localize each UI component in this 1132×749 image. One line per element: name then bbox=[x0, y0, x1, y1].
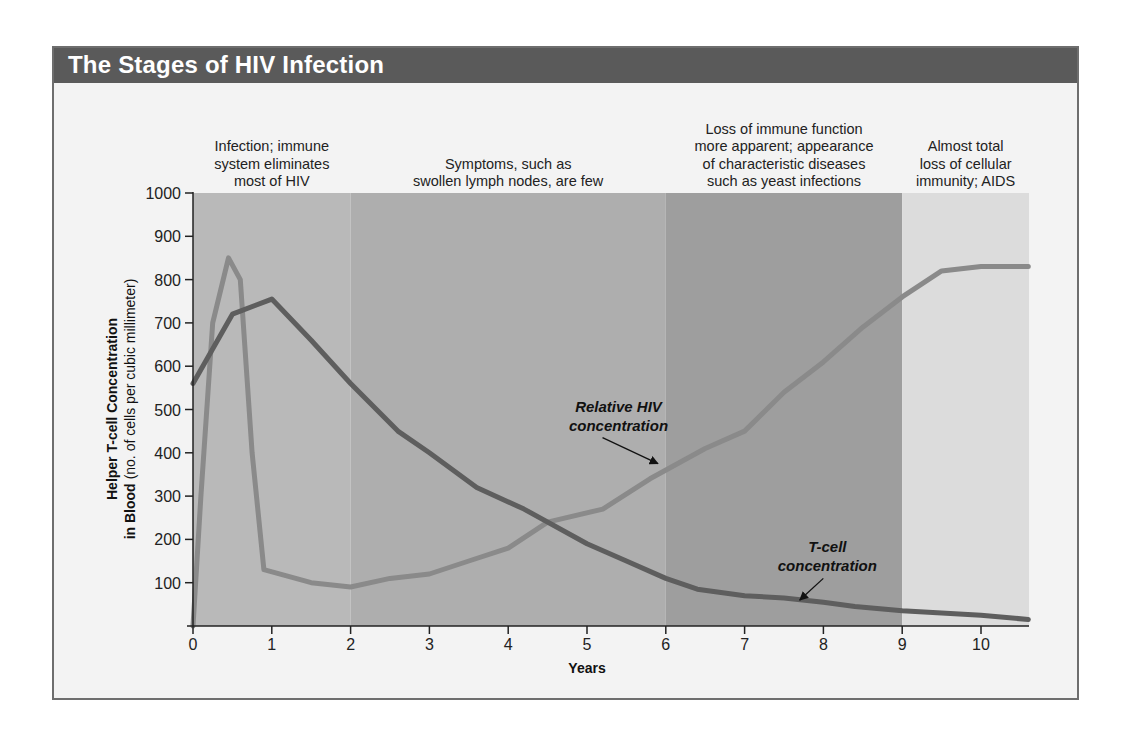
y-axis-title-units: (no. of cells per cubic millimeter) bbox=[122, 279, 138, 480]
y-tick-label-100: 100 bbox=[154, 575, 181, 592]
stage-label-1-line-2: system eliminates bbox=[214, 156, 329, 172]
y-tick-label-1000: 1000 bbox=[145, 185, 181, 202]
y-tick-label-600: 600 bbox=[154, 358, 181, 375]
x-tick-label-1: 1 bbox=[267, 636, 276, 653]
x-tick-label-4: 4 bbox=[504, 636, 513, 653]
stage-label-2-line-1: Symptoms, such as bbox=[445, 156, 572, 172]
stage-band-4 bbox=[902, 193, 1029, 626]
chart-svg: Infection; immunesystem eliminatesmost o… bbox=[0, 0, 1132, 749]
stage-label-1-line-3: most of HIV bbox=[234, 173, 310, 189]
x-tick-label-10: 10 bbox=[972, 636, 990, 653]
stage-label-4-line-2: loss of cellular bbox=[920, 156, 1012, 172]
x-tick-label-5: 5 bbox=[583, 636, 592, 653]
y-tick-label-500: 500 bbox=[154, 402, 181, 419]
hiv-series-label-line-1: Relative HIV bbox=[575, 398, 664, 415]
x-tick-label-8: 8 bbox=[819, 636, 828, 653]
x-tick-label-3: 3 bbox=[425, 636, 434, 653]
x-axis-title: Years bbox=[568, 660, 606, 676]
x-tick-label-0: 0 bbox=[189, 636, 198, 653]
y-axis-title-line2: in Blood(no. of cells per cubic millimet… bbox=[122, 279, 138, 540]
tcell-series-label-line-2: concentration bbox=[778, 557, 877, 574]
y-tick-label-800: 800 bbox=[154, 272, 181, 289]
hiv-series-label-line-2: concentration bbox=[569, 417, 668, 434]
y-tick-label-200: 200 bbox=[154, 531, 181, 548]
y-axis-title-line1: Helper T-cell Concentration bbox=[104, 318, 120, 500]
stage-label-3-line-3: of characteristic diseases bbox=[703, 156, 866, 172]
stage-band-1 bbox=[193, 193, 351, 626]
stage-label-2-line-2: swollen lymph nodes, are few bbox=[413, 173, 604, 189]
x-tick-label-2: 2 bbox=[346, 636, 355, 653]
y-axis-title: Helper T-cell Concentration in Blood(no.… bbox=[104, 279, 138, 540]
stage-label-3-line-2: more apparent; appearance bbox=[695, 138, 874, 154]
x-tick-label-7: 7 bbox=[740, 636, 749, 653]
y-tick-label-300: 300 bbox=[154, 488, 181, 505]
stage-label-1-line-1: Infection; immune bbox=[215, 138, 329, 154]
x-tick-label-6: 6 bbox=[661, 636, 670, 653]
stage-label-4-line-3: immunity; AIDS bbox=[916, 173, 1015, 189]
stage-label-3-line-1: Loss of immune function bbox=[705, 121, 862, 137]
y-tick-label-900: 900 bbox=[154, 228, 181, 245]
tcell-series-label-line-1: T-cell bbox=[808, 538, 847, 555]
y-tick-label-400: 400 bbox=[154, 445, 181, 462]
y-tick-label-700: 700 bbox=[154, 315, 181, 332]
stage-labels: Infection; immunesystem eliminatesmost o… bbox=[214, 121, 1015, 190]
x-tick-label-9: 9 bbox=[898, 636, 907, 653]
y-axis-title-bold: in Blood bbox=[122, 483, 138, 539]
stage-label-3-line-4: such as yeast infections bbox=[707, 173, 861, 189]
stage-label-4-line-1: Almost total bbox=[928, 138, 1004, 154]
